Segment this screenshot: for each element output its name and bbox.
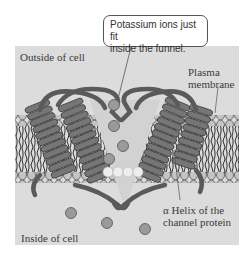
membrane-leader-line: [215, 87, 218, 113]
label-outside-of-cell: Outside of cell: [20, 51, 85, 63]
label-helix-line-1: α Helix of the: [163, 204, 231, 216]
label-inside-of-cell: Inside of cell: [21, 232, 78, 244]
callout-line-2: inside the funnel.: [110, 43, 201, 55]
callout-line-1: Potassium ions just fit: [110, 19, 201, 43]
callout-box: Potassium ions just fit inside the funne…: [103, 15, 208, 47]
label-plasma-line-2: membrane: [188, 78, 234, 90]
label-alpha-helix: α Helix of the channel protein: [163, 204, 231, 228]
label-plasma-membrane: Plasma membrane: [188, 66, 234, 90]
label-helix-line-2: channel protein: [163, 216, 231, 228]
label-plasma-line-1: Plasma: [188, 66, 234, 78]
ion-top: [109, 100, 120, 111]
